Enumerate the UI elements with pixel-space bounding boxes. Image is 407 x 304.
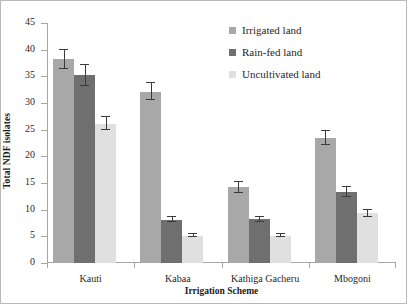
error-bar-cap-lower (146, 99, 155, 100)
y-axis-tick-label: 35 (5, 69, 35, 80)
error-bar-cap-upper (167, 216, 176, 217)
bar-group: Kabaa (134, 23, 221, 263)
legend-swatch-icon (229, 27, 236, 34)
error-bar-cap-lower (363, 216, 372, 217)
y-axis-tick-label: 30 (5, 96, 35, 107)
error-bar-cap-upper (101, 116, 110, 117)
error-bar-line (85, 65, 86, 86)
chart-figure: Total NDF isolates 051015202530354045 Ka… (0, 0, 407, 304)
error-bar-cap-upper (146, 82, 155, 83)
error-bar-cap-upper (255, 216, 264, 217)
bar[interactable] (228, 187, 249, 263)
error-bar-cap-upper (80, 64, 89, 65)
error-bar-cap-lower (234, 192, 243, 193)
error-bar-cap-lower (321, 144, 330, 145)
error-bar-cap-upper (188, 233, 197, 234)
x-axis-tick-mark (47, 263, 48, 268)
y-axis-tick-label: 5 (5, 229, 35, 240)
error-bar-cap-upper (363, 209, 372, 210)
x-axis-category-label: Kathiga Gacheru (222, 273, 309, 284)
error-bar-line (325, 131, 326, 145)
bar[interactable] (161, 220, 182, 263)
error-bar-cap-upper (59, 49, 68, 50)
error-bar-cap-upper (342, 186, 351, 187)
bar[interactable] (95, 124, 116, 263)
error-bar-cap-lower (59, 68, 68, 69)
error-bar-cap-lower (276, 236, 285, 237)
x-axis-category-label: Mbogoni (309, 273, 396, 284)
legend-item[interactable]: Uncultivated land (229, 63, 389, 85)
bar-group: Kauti (47, 23, 134, 263)
legend-item[interactable]: Rain-fed land (229, 41, 389, 63)
legend-item[interactable]: Irrigated land (229, 19, 389, 41)
error-bar-cap-lower (101, 129, 110, 130)
bar[interactable] (315, 138, 336, 263)
bar[interactable] (336, 192, 357, 263)
y-axis-tick-label: 25 (5, 123, 35, 134)
error-bar-cap-lower (167, 221, 176, 222)
bar[interactable] (182, 236, 203, 263)
x-axis-tick-mark (395, 263, 396, 268)
x-axis-tick-mark (309, 263, 310, 268)
bar[interactable] (53, 59, 74, 263)
bar[interactable] (270, 236, 291, 263)
error-bar-cap-upper (234, 181, 243, 182)
bar[interactable] (74, 75, 95, 263)
legend-label: Rain-fed land (242, 46, 302, 58)
y-axis-tick-label: 40 (5, 43, 35, 54)
error-bar-cap-upper (276, 233, 285, 234)
legend-swatch-icon (229, 71, 236, 78)
x-axis-category-label: Kabaa (134, 273, 221, 284)
error-bar-cap-lower (255, 221, 264, 222)
y-axis-tick-label: 20 (5, 149, 35, 160)
legend-swatch-icon (229, 49, 236, 56)
error-bar-cap-lower (188, 236, 197, 237)
chart-legend: Irrigated landRain-fed landUncultivated … (229, 19, 389, 85)
bar[interactable] (140, 92, 161, 263)
y-axis-tick-label: 0 (5, 256, 35, 267)
legend-label: Uncultivated land (242, 68, 321, 80)
error-bar-cap-lower (342, 196, 351, 197)
bar[interactable] (357, 213, 378, 263)
y-axis-tick-label: 15 (5, 176, 35, 187)
y-axis-tick-label: 45 (5, 16, 35, 27)
y-axis-tick-label: 10 (5, 203, 35, 214)
bar[interactable] (249, 219, 270, 263)
x-axis-tick-mark (134, 263, 135, 268)
x-axis-tick-mark (222, 263, 223, 268)
error-bar-line (151, 83, 152, 100)
error-bar-line (64, 50, 65, 69)
x-axis-category-label: Kauti (47, 273, 134, 284)
x-axis-title: Irrigation Scheme (47, 286, 396, 296)
error-bar-cap-upper (321, 130, 330, 131)
legend-label: Irrigated land (242, 24, 302, 36)
error-bar-cap-lower (80, 85, 89, 86)
